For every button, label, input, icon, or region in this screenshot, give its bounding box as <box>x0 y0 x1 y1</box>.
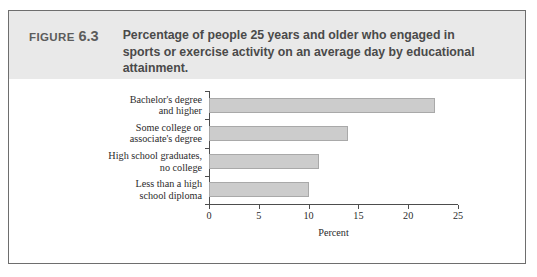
x-axis-tick-label: 5 <box>256 210 261 221</box>
bar-row <box>209 148 509 176</box>
x-axis-tick-label: 20 <box>403 210 413 221</box>
x-axis-tick <box>209 205 210 209</box>
figure-header-inner: FIGURE 6.3 Percentage of people 25 years… <box>29 27 509 77</box>
bar-row <box>209 119 509 147</box>
figure-title: Percentage of people 25 years and older … <box>123 27 495 77</box>
bar-series <box>209 91 509 204</box>
bar-row <box>209 91 509 119</box>
x-axis-tick-labels: 0510152025 <box>209 210 509 224</box>
bar <box>209 154 319 169</box>
figure-label: FIGURE 6.3 <box>29 27 99 44</box>
category-label-line: Less than a high <box>136 178 203 190</box>
x-axis-tick-label: 25 <box>453 210 463 221</box>
y-axis-tick <box>205 119 209 120</box>
x-axis-tick-label: 0 <box>206 210 211 221</box>
category-label-line: no college <box>160 162 202 174</box>
bar-row <box>209 176 509 204</box>
figure-header-band: FIGURE 6.3 Percentage of people 25 years… <box>9 11 525 79</box>
y-axis-tick <box>205 91 209 92</box>
bar <box>209 182 309 197</box>
figure-number: 6.3 <box>78 28 98 44</box>
x-axis-tick <box>458 205 459 209</box>
category-label: Less than a highschool diploma <box>9 176 202 204</box>
bar-chart: Bachelor's degreeand higherSome college … <box>9 79 525 264</box>
bar <box>209 98 435 113</box>
plot-area: Bachelor's degreeand higherSome college … <box>9 79 525 263</box>
y-axis-tick <box>205 148 209 149</box>
figure-label-prefix: FIGURE <box>29 31 75 43</box>
category-label-line: school diploma <box>139 190 202 202</box>
x-axis-title: Percent <box>209 227 458 238</box>
bar <box>209 126 348 141</box>
x-axis-tick-label: 15 <box>353 210 363 221</box>
figure-container: FIGURE 6.3 Percentage of people 25 years… <box>8 10 526 264</box>
category-label-line: associate's degree <box>130 133 202 145</box>
x-axis-tick <box>309 205 310 209</box>
figure-title-line2: exercise activity on an average day by e… <box>123 45 475 76</box>
x-axis-tick <box>408 205 409 209</box>
x-axis-tick <box>358 205 359 209</box>
category-label: High school graduates,no college <box>9 148 202 176</box>
x-axis-tick <box>259 205 260 209</box>
category-label-line: and higher <box>159 105 202 117</box>
category-label-line: High school graduates, <box>108 150 202 162</box>
x-axis-tick-label: 10 <box>304 210 314 221</box>
y-axis-tick <box>205 176 209 177</box>
category-label: Bachelor's degreeand higher <box>9 91 202 119</box>
category-label-line: Bachelor's degree <box>130 94 202 106</box>
category-label-line: Some college or <box>136 122 202 134</box>
category-label: Some college orassociate's degree <box>9 119 202 147</box>
category-axis-labels: Bachelor's degreeand higherSome college … <box>9 91 202 204</box>
